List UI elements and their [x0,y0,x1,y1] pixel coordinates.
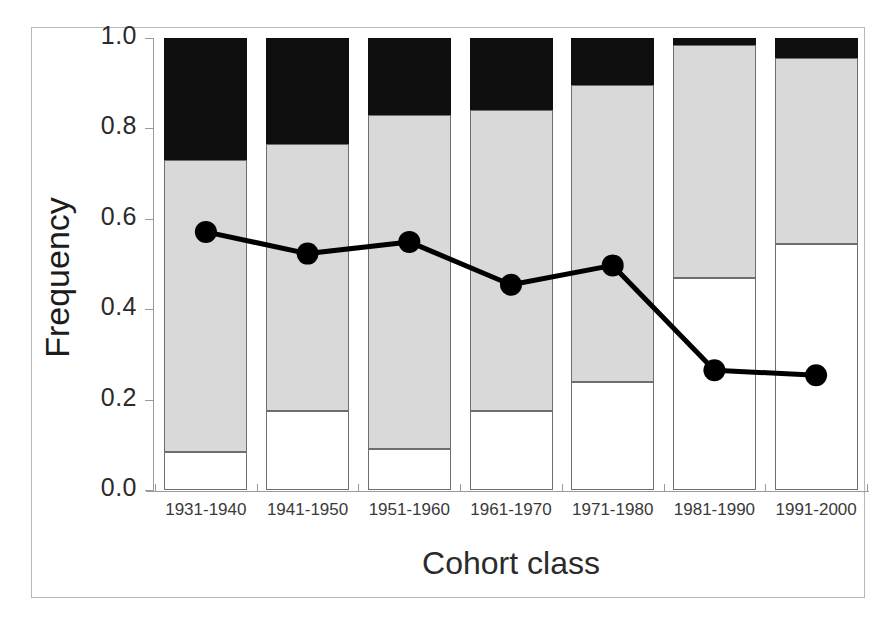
stacked-bar [470,38,553,490]
x-axis-title: Cohort class [155,545,867,582]
x-tick-mark [867,484,868,492]
x-tick-label: 1991-2000 [751,500,881,520]
bar-segment-white [164,452,247,490]
bar-segment-gray [368,115,451,449]
bar-segment-gray [164,160,247,452]
y-tick-label: 0.8 [77,111,137,140]
x-tick-mark [460,484,461,492]
x-axis-line [146,491,869,492]
y-tick-label: 0.2 [77,383,137,412]
figure-container: 1.00.80.60.40.20.0 Frequency 1931-194019… [0,0,893,629]
y-tick-labels: 1.00.80.60.40.20.0 [75,0,137,629]
bar-segment-gray [266,144,349,411]
stacked-bar [266,38,349,490]
bar-segment-gray [775,58,858,243]
bar-segment-white [673,278,756,490]
y-axis-title: Frequency [38,78,77,478]
x-tick-mark [257,484,258,492]
bar-segment-black [775,38,858,58]
y-axis-line [153,38,154,491]
bar-segment-black [673,38,756,45]
stacked-bar [164,38,247,490]
y-tick-mark [145,219,153,220]
bar-segment-gray [673,45,756,278]
x-tick-mark [562,484,563,492]
y-tick-mark [145,400,153,401]
bar-segment-white [266,411,349,490]
y-tick-mark [145,128,153,129]
stacked-bar [775,38,858,490]
bar-segment-white [368,449,451,490]
y-tick-mark [145,38,153,39]
y-tick-label: 0.0 [77,473,137,502]
stacked-bar [368,38,451,490]
bar-segment-white [571,382,654,490]
y-tick-label: 0.6 [77,202,137,231]
x-tick-mark [358,484,359,492]
bar-segment-white [470,411,553,490]
stacked-bar [571,38,654,490]
bar-segment-black [164,38,247,160]
bar-segment-white [775,244,858,490]
x-tick-mark [765,484,766,492]
y-tick-mark [145,309,153,310]
bar-segment-black [571,38,654,85]
bar-segment-black [368,38,451,115]
x-tick-mark [664,484,665,492]
x-tick-mark [155,484,156,492]
bar-segment-gray [470,110,553,411]
y-tick-label: 1.0 [77,21,137,50]
bar-segment-black [470,38,553,110]
plot-area [155,38,867,490]
stacked-bar [673,38,756,490]
bar-segment-black [266,38,349,144]
bar-segment-gray [571,85,654,381]
y-tick-label: 0.4 [77,292,137,321]
